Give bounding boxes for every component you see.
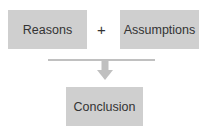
- conclusion-box: Conclusion: [66, 87, 143, 126]
- down-arrow-icon: [96, 61, 114, 81]
- plus-operator: +: [97, 21, 106, 38]
- assumptions-box: Assumptions: [120, 10, 199, 49]
- reasons-label: Reasons: [23, 23, 72, 37]
- assumptions-label: Assumptions: [124, 23, 196, 37]
- conclusion-label: Conclusion: [74, 100, 136, 114]
- reasons-box: Reasons: [8, 10, 87, 49]
